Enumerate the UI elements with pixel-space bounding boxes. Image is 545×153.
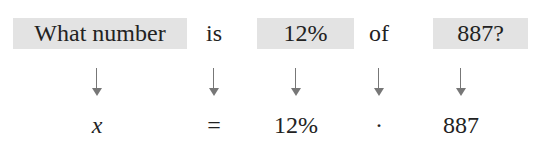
down-arrow-icon <box>291 68 301 98</box>
equation-equals: = <box>194 110 234 140</box>
phrase-of: of <box>362 18 396 49</box>
equation-12-percent: 12% <box>266 110 326 140</box>
down-arrow-icon <box>209 68 219 98</box>
equation-887: 887 <box>431 110 491 140</box>
phrase-what-number: What number <box>13 18 187 49</box>
down-arrow-icon <box>92 68 102 98</box>
down-arrow-icon <box>456 68 466 98</box>
equation-variable-x: x <box>77 110 117 140</box>
equation-multiply-dot: · <box>359 110 399 140</box>
phrase-is: is <box>196 18 232 49</box>
phrase-12-percent: 12% <box>257 18 354 49</box>
down-arrow-icon <box>374 68 384 98</box>
phrase-887: 887? <box>433 18 528 49</box>
